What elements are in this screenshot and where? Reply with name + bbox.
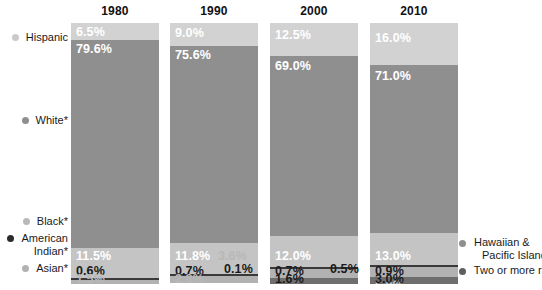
legend-dot-two-or-more-icon	[459, 268, 466, 275]
legend-dot-hawaiian-icon	[459, 240, 466, 247]
legend-dot-white-icon	[22, 117, 29, 124]
value-white-2000: 69.0%	[275, 59, 311, 73]
value-black-2010: 13.0%	[375, 249, 411, 263]
value-hispanic-2000: 12.5%	[275, 28, 311, 42]
legend-dot-asian-icon	[22, 265, 29, 272]
legend-item-two-or-more-races[interactable]: Two or more races**	[459, 264, 542, 277]
legend-item-hispanic[interactable]: Hispanic	[0, 30, 68, 44]
legend-item-white[interactable]: White*	[0, 113, 68, 127]
year-header-2000: 2000	[270, 4, 358, 18]
legend-item-asian[interactable]: Asian*	[0, 261, 68, 275]
value-hispanic-1980: 6.5%	[76, 25, 105, 39]
value-hispanic-2010: 16.0%	[375, 31, 411, 45]
segment-white-2000	[270, 56, 358, 236]
year-header-1980: 1980	[71, 4, 159, 18]
bar-column-1980: 6.5% 79.6% 11.5% 0.6%	[71, 23, 159, 284]
value-black-2000: 12.0%	[275, 249, 311, 263]
value-white-1980: 79.6%	[76, 42, 112, 56]
legend-item-american-indian[interactable]: American Indian*	[0, 231, 68, 258]
legend-dot-black-icon	[23, 218, 30, 225]
legend-label-two-or-more: Two or more races**	[474, 264, 542, 276]
legend-label-hispanic: Hispanic	[26, 31, 68, 44]
value-white-2010: 71.0%	[375, 69, 411, 83]
value-two-or-more-2010: 3.0%	[375, 272, 404, 286]
legend-dot-american-indian-icon	[7, 235, 14, 242]
legend-label-american-indian: American	[22, 232, 68, 245]
legend-label-asian: Asian*	[36, 262, 68, 275]
value-hawaiian-1990: 3.6%	[218, 249, 247, 263]
value-asian-1990: 2.8%	[175, 272, 204, 286]
value-hispanic-1990: 9.0%	[175, 26, 204, 40]
legend-item-hawaiian-pacific-islander[interactable]: Hawaiian & Pacific Islander**	[459, 236, 542, 262]
value-asian-2000: 1.6%	[275, 272, 304, 286]
year-header-2010: 2010	[370, 4, 458, 18]
value-asian-1980: 1.5%	[76, 272, 105, 286]
legend-dot-hispanic-icon	[12, 34, 19, 41]
legend-item-black[interactable]: Black*	[0, 214, 68, 228]
segment-white-2010	[370, 65, 458, 233]
stacked-bar-chart: 1980 1990 2000 2010 6.5% 79.6% 11.5% 0.6…	[0, 0, 542, 290]
legend-label-white: White*	[36, 114, 68, 127]
bar-column-1990: 9.0% 75.6% 11.8% 0.7%	[170, 23, 258, 284]
year-header-1990: 1990	[170, 4, 258, 18]
legend-label-hawaiian-line2: Pacific Islander**	[459, 249, 542, 262]
legend-label-black: Black*	[37, 215, 68, 228]
value-white-1990: 75.6%	[175, 48, 211, 62]
bar-column-2010: 16.0% 71.0% 13.0% 0.9% 5.0%	[370, 23, 458, 284]
segment-white-1980	[71, 40, 159, 248]
value-black-1990: 11.8%	[175, 249, 210, 263]
segment-white-1990	[170, 46, 258, 243]
legend-label-american-indian-line2: Indian*	[0, 245, 68, 258]
value-black-1980: 11.5%	[76, 249, 111, 263]
bar-column-2000: 12.5% 69.0% 12.0% 0.7%	[270, 23, 358, 284]
value-two-or-more-1990: 0.1%	[224, 262, 253, 276]
value-hawaiian-2000: 0.5%	[330, 262, 359, 276]
legend-label-hawaiian: Hawaiian &	[474, 236, 530, 248]
